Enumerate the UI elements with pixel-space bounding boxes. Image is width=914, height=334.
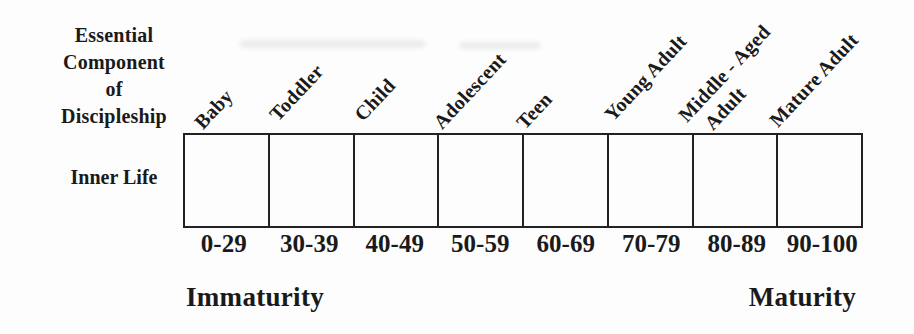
table-cell-mature-adult: [778, 135, 861, 226]
scan-artifact: [240, 40, 425, 48]
stage-label-toddler: Toddler: [265, 60, 328, 125]
table-cell-child: [355, 135, 440, 226]
table-cell-teen: [524, 135, 609, 226]
range-label-teen: 60-69: [523, 230, 609, 258]
range-label-adolescent: 50-59: [438, 230, 524, 258]
maturity-table: [183, 133, 863, 228]
range-label-middle-aged: 80-89: [694, 230, 780, 258]
stage-label-adolescent: Adolescent: [429, 48, 510, 133]
title-line: Essential: [28, 22, 200, 49]
table-cell-middle-aged: [694, 135, 779, 226]
stage-label-teen: Teen: [512, 88, 556, 133]
title-line: Discipleship: [28, 103, 200, 130]
table-cell-toddler: [270, 135, 355, 226]
title-line: Component: [28, 49, 200, 76]
range-label-young-adult: 70-79: [609, 230, 695, 258]
row-label-inner-life: Inner Life: [28, 166, 200, 189]
range-label-toddler: 30-39: [267, 230, 353, 258]
range-label-baby: 0-29: [181, 230, 267, 258]
discipleship-maturity-diagram: Essential Component of Discipleship Baby…: [0, 0, 914, 334]
essential-component-title: Essential Component of Discipleship: [28, 22, 200, 130]
score-ranges: 0-29 30-39 40-49 50-59 60-69 70-79 80-89…: [181, 230, 865, 258]
table-cell-young-adult: [609, 135, 694, 226]
maturity-label: Maturity: [749, 282, 856, 313]
stage-label-child: Child: [350, 74, 399, 125]
title-line: of: [28, 76, 200, 103]
range-label-child: 40-49: [352, 230, 438, 258]
scan-artifact: [460, 42, 540, 49]
immaturity-label: Immaturity: [186, 282, 324, 313]
range-label-mature-adult: 90-100: [780, 230, 866, 258]
table-cell-adolescent: [439, 135, 524, 226]
stage-label-mature-adult: Mature Adult: [765, 29, 862, 131]
